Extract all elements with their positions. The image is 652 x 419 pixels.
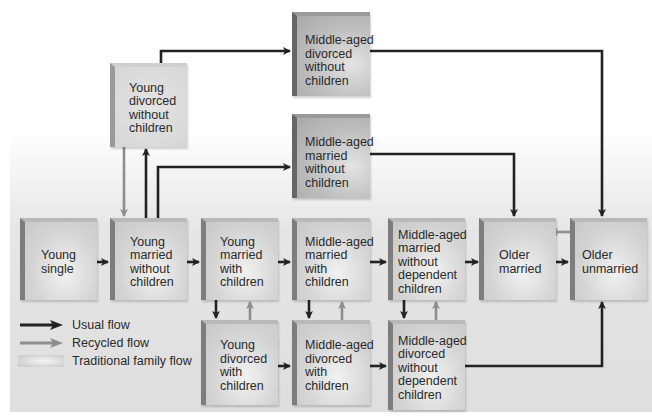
node-label: children [220, 380, 272, 394]
node-label: single [41, 263, 91, 277]
node-label: with [220, 263, 272, 277]
usual-flow-arrow-icon [18, 319, 64, 331]
node-label: married [305, 150, 364, 164]
node-middle-aged-divorced-without-children: Middle-aged divorced without children [292, 12, 370, 96]
node-label: married [130, 249, 181, 263]
node-label: children [305, 177, 364, 191]
legend-item-recycled-flow: Recycled flow [18, 334, 192, 352]
node-label: dependent [398, 375, 459, 389]
node-label: without [130, 263, 181, 277]
node-label: Middle-aged [398, 229, 459, 243]
node-label: Middle-aged [305, 339, 364, 353]
node-label: Older [582, 249, 641, 263]
node-label: children [220, 276, 272, 290]
node-label: Older [499, 249, 550, 263]
node-label: divorced [220, 353, 272, 367]
node-young-single: Young single [20, 218, 97, 300]
node-middle-aged-divorced-without-dependent-children: Middle-aged divorced without dependent c… [388, 320, 465, 410]
node-label: divorced [129, 95, 181, 109]
node-young-divorced-with-children: Young divorced with children [201, 320, 278, 405]
node-label: married [305, 249, 364, 263]
legend-label: Recycled flow [72, 336, 149, 350]
node-label: Young [220, 236, 272, 250]
node-label: divorced [398, 348, 459, 362]
node-label: Young [130, 236, 181, 250]
node-label: Young [41, 249, 91, 263]
node-label: married [398, 242, 459, 256]
node-young-married-with-children: Young married with children [201, 218, 278, 300]
node-label: divorced [305, 353, 364, 367]
node-middle-aged-married-with-children: Middle-aged married with children [292, 218, 370, 300]
node-label: children [305, 75, 364, 89]
node-older-married: Older married [479, 218, 556, 300]
node-label: children [398, 283, 459, 297]
node-label: without [305, 163, 364, 177]
legend: Usual flow Recycled flow Traditional fam… [18, 316, 192, 370]
node-label: Middle-aged [398, 335, 459, 349]
node-middle-aged-married-without-children: Middle-aged married without children [292, 114, 370, 198]
recycled-flow-arrow-icon [18, 337, 64, 349]
node-young-married-without-children: Young married without children [110, 218, 187, 300]
gradient-swatch-icon [18, 355, 64, 367]
legend-label: Usual flow [72, 318, 130, 332]
node-label: without [398, 256, 459, 270]
node-label: Middle-aged [305, 136, 364, 150]
node-young-divorced-without-children: Young divorced without children [110, 63, 187, 147]
legend-label: Traditional family flow [72, 354, 192, 368]
node-label: divorced [305, 48, 364, 62]
node-label: without [398, 362, 459, 376]
node-label: children [130, 276, 181, 290]
node-label: with [305, 263, 364, 277]
legend-item-usual-flow: Usual flow [18, 316, 192, 334]
node-label: children [129, 122, 181, 136]
node-label: dependent [398, 269, 459, 283]
node-label: married [220, 249, 272, 263]
node-middle-aged-divorced-with-children: Middle-aged divorced with children [292, 320, 370, 405]
node-label: Middle-aged [305, 34, 364, 48]
node-label: married [499, 263, 550, 277]
node-label: unmarried [582, 263, 641, 277]
node-label: without [305, 61, 364, 75]
node-label: Middle-aged [305, 236, 364, 250]
node-label: without [129, 109, 181, 123]
node-label: children [305, 380, 364, 394]
node-label: with [220, 366, 272, 380]
node-label: children [398, 389, 459, 403]
node-label: children [305, 276, 364, 290]
node-label: with [305, 366, 364, 380]
node-older-unmarried: Older unmarried [570, 218, 647, 300]
legend-item-traditional-family-flow: Traditional family flow [18, 352, 192, 370]
node-middle-aged-married-without-dependent-children: Middle-aged married without dependent ch… [388, 218, 465, 300]
node-label: Young [129, 82, 181, 96]
node-label: Young [220, 339, 272, 353]
